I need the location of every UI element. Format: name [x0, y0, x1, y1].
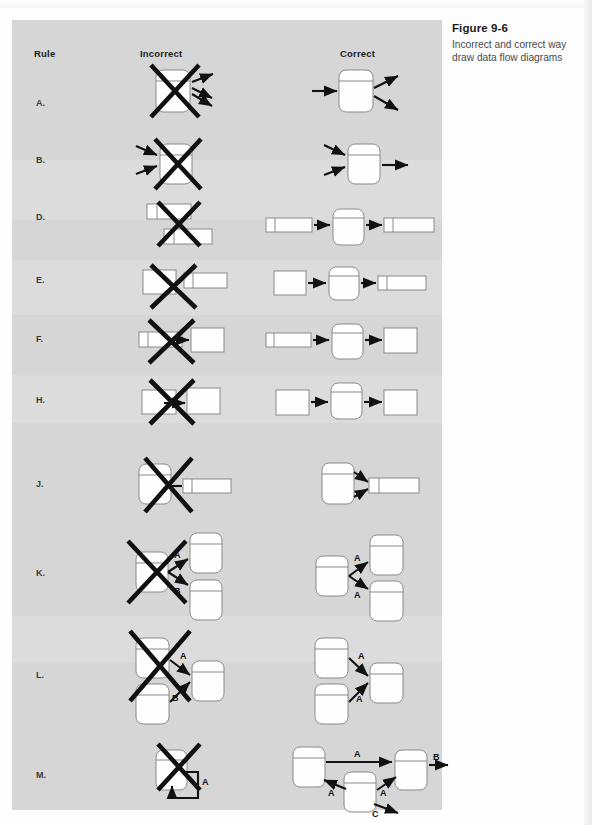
- caption-line-1: Incorrect and correct way: [452, 38, 592, 51]
- row-a-correct: [312, 70, 398, 112]
- row-m-incorrect: A: [156, 744, 209, 798]
- row-k-incorrect: A B: [128, 533, 222, 620]
- scan-top-edge: [0, 0, 592, 8]
- row-h-correct: [276, 383, 417, 419]
- row-a-incorrect: [151, 65, 213, 117]
- caption-line-2: draw data flow diagrams: [452, 51, 592, 64]
- diagram-layer: A B A A: [12, 20, 442, 810]
- figure-caption: Figure 9-6 Incorrect and correct way dra…: [452, 22, 592, 64]
- flow-label-c: C: [372, 809, 379, 819]
- row-b-correct: [324, 144, 408, 184]
- row-d-incorrect: [147, 202, 212, 246]
- flow-label-a: A: [380, 788, 387, 798]
- flow-label-b: B: [172, 693, 179, 703]
- flow-label-a: A: [356, 694, 363, 704]
- caption-title: Figure 9-6: [452, 22, 592, 35]
- flow-label-a: A: [354, 590, 361, 600]
- page-canvas: Rule Incorrect Correct A. B. D. E. F. H.…: [0, 0, 592, 825]
- row-f-incorrect: [139, 320, 224, 363]
- scan-right-edge: [584, 0, 592, 825]
- row-l-incorrect: A B: [130, 631, 224, 724]
- row-f-correct: [266, 324, 417, 359]
- row-d-correct: [266, 209, 434, 245]
- row-l-correct: A A: [315, 638, 403, 724]
- flow-label-a: A: [354, 553, 361, 563]
- flow-label-a: A: [180, 651, 187, 661]
- row-m-correct: A A A B C: [293, 747, 448, 819]
- row-k-correct: A A: [316, 535, 403, 621]
- row-b-incorrect: [136, 139, 201, 189]
- flow-label-a: A: [358, 651, 365, 661]
- row-e-correct: [274, 267, 426, 300]
- flow-label-a: A: [354, 749, 361, 759]
- flow-label-b: B: [433, 752, 440, 762]
- flow-label-a: A: [328, 788, 335, 798]
- figure-panel: Rule Incorrect Correct A. B. D. E. F. H.…: [12, 20, 442, 810]
- flow-label-a: A: [202, 777, 209, 787]
- row-j-incorrect: [139, 458, 231, 512]
- row-j-correct: [322, 463, 419, 504]
- row-h-incorrect: [142, 380, 220, 424]
- row-e-incorrect: [143, 265, 227, 308]
